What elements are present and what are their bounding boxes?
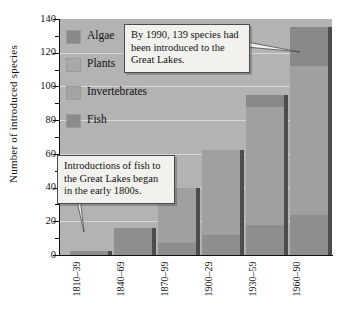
- x-tick-label-1840-69: 1840–69: [116, 256, 130, 302]
- legend-swatch-plants: [66, 58, 81, 72]
- bar-segment-invertebrates: [246, 107, 284, 225]
- y-tick-label-20: 20: [16, 216, 56, 226]
- bar-segment-fish: [246, 225, 284, 255]
- x-tick-label-1870-99: 1870–99: [160, 256, 174, 302]
- legend-label-fish: Fish: [87, 112, 107, 126]
- y-tick-label-140: 140: [16, 14, 56, 24]
- bar-1810-39: [70, 251, 108, 255]
- bar-segment-fish: [158, 243, 196, 255]
- bar-shadow-1900-29: [240, 150, 244, 255]
- legend-swatch-algae: [66, 30, 81, 44]
- bar-1960-90: [290, 27, 328, 255]
- bar-1900-29: [202, 150, 240, 255]
- y-tick-label-40: 40: [16, 182, 56, 192]
- y-tick-label-80: 80: [16, 115, 56, 125]
- chart-container: Number of introduced species 140 120 100…: [0, 0, 344, 315]
- legend-label-plants: Plants: [87, 56, 115, 70]
- bar-segment-fish: [70, 251, 108, 255]
- legend-swatch-fish: [66, 114, 81, 128]
- bar-segment-algae: [290, 27, 328, 66]
- legend-label-algae: Algae: [87, 28, 114, 42]
- bar-segment-invertebrates: [202, 150, 240, 235]
- bar-shadow-1960-90: [328, 27, 332, 255]
- y-tick-label-100: 100: [16, 81, 56, 91]
- bar-1840-69: [114, 228, 152, 255]
- bar-segment-fish: [290, 215, 328, 255]
- bar-shadow-1810-39: [108, 251, 112, 255]
- x-tick-label-1900-29: 1900–29: [204, 256, 218, 302]
- bar-segment-invertebrates: [290, 66, 328, 215]
- bar-segment-algae: [246, 95, 284, 107]
- y-tick-label-120: 120: [16, 47, 56, 57]
- legend-label-invertebrates: Invertebrates: [87, 84, 147, 98]
- bar-shadow-1870-99: [196, 188, 200, 255]
- bar-shadow-1930-59: [284, 95, 288, 255]
- bar-segment-fish: [114, 228, 152, 255]
- x-tick-label-1810-39: 1810–39: [72, 256, 86, 302]
- legend-swatch-invertebrates: [66, 86, 81, 100]
- bar-segment-fish: [202, 235, 240, 255]
- bar-shadow-1840-69: [152, 228, 156, 255]
- y-tick-label-0: 0: [16, 250, 56, 260]
- x-tick-label-1960-90: 1960–90: [292, 256, 306, 302]
- y-tick-label-60: 60: [16, 149, 56, 159]
- x-tick-label-1930-59: 1930–59: [248, 256, 262, 302]
- callout-bottom: Introductions of fish to the Great Lakes…: [57, 155, 175, 204]
- bar-1930-59: [246, 95, 284, 255]
- callout-top: By 1990, 139 species had been introduced…: [124, 24, 250, 73]
